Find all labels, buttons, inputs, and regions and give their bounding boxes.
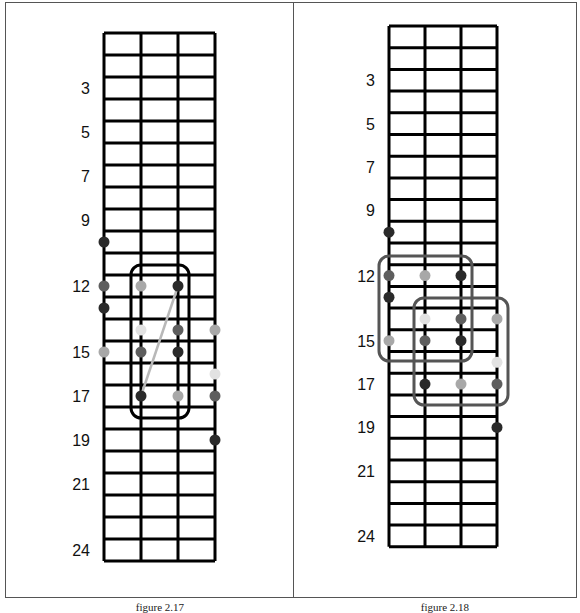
note-dot (173, 325, 184, 336)
note-dot (456, 270, 467, 281)
fret-number-label: 3 (81, 80, 90, 97)
fret-number-label: 5 (366, 116, 375, 133)
fret-number-label: 17 (72, 388, 90, 405)
fret-number-label: 7 (366, 159, 375, 176)
note-dot (492, 357, 503, 368)
note-dot (420, 335, 431, 346)
fret-number-label: 17 (357, 376, 375, 393)
note-dot (210, 369, 221, 380)
note-dot (420, 313, 431, 324)
note-dot (210, 325, 221, 336)
note-dot (492, 379, 503, 390)
caption-figure-2-18: figure 2.18 (345, 602, 545, 613)
caption-figure-2-17: figure 2.17 (60, 602, 260, 613)
fret-number-label: 9 (366, 202, 375, 219)
note-dot (136, 347, 147, 358)
fretboard-diagrams: 3579121517192124 3579121517192124 (0, 0, 580, 613)
note-dot (173, 281, 184, 292)
note-dot (99, 347, 110, 358)
fret-number-label: 24 (72, 542, 90, 559)
note-dot (492, 422, 503, 433)
fret-number-label: 15 (357, 333, 375, 350)
note-dot (210, 435, 221, 446)
fret-number-label: 5 (81, 124, 90, 141)
note-dot (420, 379, 431, 390)
fret-number-label: 3 (366, 72, 375, 89)
note-dot (173, 391, 184, 402)
note-dot (384, 335, 395, 346)
fret-number-label: 12 (357, 268, 375, 285)
note-dot (173, 347, 184, 358)
note-dot (456, 379, 467, 390)
note-dot (99, 281, 110, 292)
fret-number-label: 24 (357, 528, 375, 545)
note-dot (99, 303, 110, 314)
note-dot (456, 313, 467, 324)
fretboard-figure-2-17: 3579121517192124 (72, 33, 220, 561)
note-dot (136, 391, 147, 402)
fret-number-label: 21 (357, 463, 375, 480)
fretboard-figure-2-18: 3579121517192124 (357, 26, 508, 547)
fret-number-label: 19 (72, 432, 90, 449)
fret-number-label: 19 (357, 419, 375, 436)
fret-number-label: 15 (72, 344, 90, 361)
note-dot (456, 335, 467, 346)
note-dot (136, 325, 147, 336)
note-dot (492, 313, 503, 324)
note-dot (384, 227, 395, 238)
fret-number-label: 9 (81, 212, 90, 229)
fret-number-label: 7 (81, 168, 90, 185)
note-dot (384, 270, 395, 281)
fret-number-label: 21 (72, 476, 90, 493)
note-dot (384, 292, 395, 303)
fret-number-label: 12 (72, 278, 90, 295)
note-dot (99, 237, 110, 248)
note-dot (210, 391, 221, 402)
note-dot (420, 270, 431, 281)
note-dot (136, 281, 147, 292)
